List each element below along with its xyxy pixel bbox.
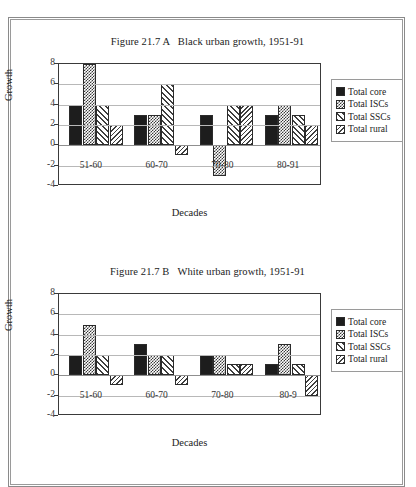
y-tick-label: -4 bbox=[9, 409, 55, 419]
legend-item[interactable]: Total ISCs bbox=[336, 99, 399, 109]
figure-a-x-axis-label: Decades bbox=[58, 207, 321, 218]
zero-line bbox=[59, 145, 320, 146]
figure-a-legend: Total coreTotal ISCsTotal SSCsTotal rura… bbox=[331, 79, 403, 142]
legend-item[interactable]: Total SSCs bbox=[336, 112, 399, 122]
legend-swatch-icon bbox=[336, 355, 345, 364]
gridline bbox=[59, 335, 320, 336]
bar-total-rural bbox=[305, 125, 318, 145]
figure-b-x-axis-label: Decades bbox=[58, 437, 321, 448]
bar-total-rural bbox=[175, 145, 188, 155]
gridline bbox=[59, 84, 320, 85]
bar-total-sscs bbox=[227, 364, 240, 375]
legend-swatch-icon bbox=[336, 317, 345, 326]
bar-total-rural bbox=[110, 125, 123, 145]
legend-swatch-icon bbox=[336, 87, 345, 96]
legend-swatch-icon bbox=[336, 342, 345, 351]
gridline bbox=[59, 355, 320, 356]
bar-total-core bbox=[134, 344, 147, 376]
y-tick-label: 6 bbox=[9, 77, 55, 87]
figure-b: Figure 21.7 B White urban growth, 1951-9… bbox=[9, 266, 406, 462]
bar-total-core bbox=[265, 364, 278, 375]
bar-total-sscs bbox=[161, 355, 174, 375]
gridline bbox=[59, 166, 320, 167]
y-tick-mark bbox=[54, 185, 58, 186]
zero-line bbox=[59, 375, 320, 376]
gridline bbox=[59, 125, 320, 126]
figure-b-plot-area bbox=[58, 293, 321, 415]
y-tick-label: 8 bbox=[9, 287, 55, 297]
y-tick-label: 8 bbox=[9, 57, 55, 67]
bar-total-core bbox=[200, 115, 213, 146]
y-tick-label: -4 bbox=[9, 179, 55, 189]
legend-label: Total core bbox=[348, 317, 386, 327]
bar-total-sscs bbox=[161, 84, 174, 145]
gridline bbox=[59, 396, 320, 397]
legend-item[interactable]: Total core bbox=[336, 87, 399, 97]
bar-total-core bbox=[200, 355, 213, 375]
legend-label: Total ISCs bbox=[348, 99, 388, 109]
bar-total-rural bbox=[175, 375, 188, 385]
figure-a-title: Figure 21.7 A Black urban growth, 1951-9… bbox=[9, 36, 406, 47]
figure-a: Figure 21.7 A Black urban growth, 1951-9… bbox=[9, 36, 406, 232]
legend-label: Total rural bbox=[348, 354, 388, 364]
bar-total-core bbox=[134, 115, 147, 146]
gridline bbox=[59, 314, 320, 315]
legend-swatch-icon bbox=[336, 112, 345, 121]
figure-b-title: Figure 21.7 B White urban growth, 1951-9… bbox=[9, 266, 406, 277]
figure-a-plot-area bbox=[58, 63, 321, 185]
y-tick-label: -2 bbox=[9, 159, 55, 169]
legend-label: Total rural bbox=[348, 124, 388, 134]
legend-item[interactable]: Total rural bbox=[336, 354, 399, 364]
bar-total-iscs bbox=[213, 355, 226, 375]
bar-total-rural bbox=[305, 375, 318, 395]
y-tick-label: -2 bbox=[9, 389, 55, 399]
legend-item[interactable]: Total SSCs bbox=[336, 342, 399, 352]
bar-total-sscs bbox=[292, 364, 305, 375]
y-tick-mark bbox=[54, 415, 58, 416]
legend-label: Total ISCs bbox=[348, 329, 388, 339]
bar-total-rural bbox=[240, 364, 253, 375]
legend-item[interactable]: Total core bbox=[336, 317, 399, 327]
legend-swatch-icon bbox=[336, 330, 345, 339]
y-tick-label: 4 bbox=[9, 328, 55, 338]
legend-label: Total core bbox=[348, 87, 386, 97]
y-tick-label: 0 bbox=[9, 138, 55, 148]
legend-swatch-icon bbox=[336, 125, 345, 134]
figure-b-chart: Growth -4-202468 51-6060-7070-8080-9 Dec… bbox=[9, 287, 406, 462]
bar-total-iscs bbox=[148, 355, 161, 375]
bar-total-iscs bbox=[278, 344, 291, 376]
figure-a-chart: Growth -4-202468 51-6060-7070-8080-91 De… bbox=[9, 57, 406, 232]
bar-total-iscs bbox=[148, 115, 161, 146]
y-tick-label: 6 bbox=[9, 307, 55, 317]
legend-label: Total SSCs bbox=[348, 112, 390, 122]
y-tick-label: 0 bbox=[9, 368, 55, 378]
legend-swatch-icon bbox=[336, 100, 345, 109]
bar-total-core bbox=[69, 355, 82, 375]
bar-total-sscs bbox=[292, 115, 305, 146]
bar-total-sscs bbox=[96, 355, 109, 375]
y-tick-label: 4 bbox=[9, 98, 55, 108]
legend-item[interactable]: Total rural bbox=[336, 124, 399, 134]
bar-total-iscs bbox=[213, 145, 226, 176]
y-tick-label: 2 bbox=[9, 118, 55, 128]
gridline bbox=[59, 105, 320, 106]
bar-total-core bbox=[265, 115, 278, 146]
legend-item[interactable]: Total ISCs bbox=[336, 329, 399, 339]
page-frame: Figure 21.7 A Black urban growth, 1951-9… bbox=[8, 17, 405, 487]
figure-b-legend: Total coreTotal ISCsTotal SSCsTotal rura… bbox=[331, 309, 403, 372]
y-tick-label: 2 bbox=[9, 348, 55, 358]
legend-label: Total SSCs bbox=[348, 342, 390, 352]
bar-total-rural bbox=[110, 375, 123, 385]
bar-total-iscs bbox=[83, 325, 96, 376]
